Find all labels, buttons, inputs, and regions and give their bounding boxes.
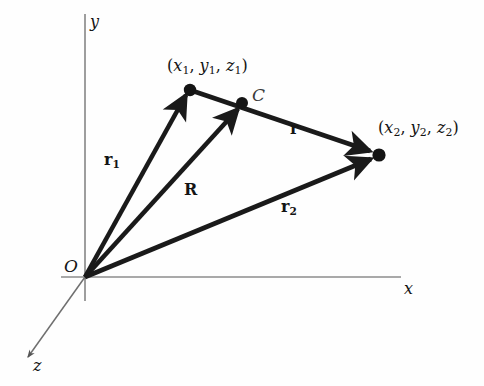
z-axis-label: z bbox=[33, 358, 41, 374]
point-2-y: y bbox=[411, 118, 420, 137]
x-axis-label: x bbox=[404, 281, 413, 297]
z-axis-line bbox=[28, 277, 85, 357]
point-1-coordinate-label: (x1, y1, z1) bbox=[167, 58, 248, 77]
comma-2: , bbox=[216, 56, 221, 75]
paren-close: ) bbox=[452, 118, 458, 137]
vector-r1-subscript: 1 bbox=[112, 158, 119, 170]
point-1-dot bbox=[184, 84, 196, 96]
point-1-y-subscript: 1 bbox=[209, 64, 216, 77]
point-2-x: x bbox=[384, 118, 393, 137]
paren-close: ) bbox=[241, 56, 247, 75]
vector-diagram-figure: y x z O (x1, y1, z1) C (x2, y2, z2) r1 R… bbox=[0, 0, 484, 386]
vector-r-line bbox=[190, 90, 370, 151]
point-2-z: z bbox=[437, 118, 445, 137]
vector-lines bbox=[85, 90, 371, 277]
point-c-label: C bbox=[252, 87, 265, 104]
vector-R-line bbox=[85, 109, 238, 277]
point-2-coordinate-label: (x2, y2, z2) bbox=[378, 120, 459, 139]
comma-1: , bbox=[189, 56, 194, 75]
vector-r2-line bbox=[85, 159, 371, 277]
comma-1: , bbox=[400, 118, 405, 137]
vector-R-label: R bbox=[184, 182, 197, 198]
point-2-dot bbox=[372, 148, 385, 161]
point-1-x: x bbox=[173, 56, 182, 75]
origin-label: O bbox=[64, 258, 78, 275]
point-1-y: y bbox=[200, 56, 209, 75]
comma-2: , bbox=[427, 118, 432, 137]
point-2-y-subscript: 2 bbox=[420, 126, 427, 139]
vector-r-label: r bbox=[290, 121, 298, 137]
vector-r2-subscript: 2 bbox=[289, 205, 296, 217]
point-c-dot bbox=[236, 97, 248, 109]
vector-r1-label: r1 bbox=[104, 152, 120, 170]
y-axis-label: y bbox=[90, 14, 99, 30]
vector-r2-label: r2 bbox=[281, 199, 297, 217]
point-1-z: z bbox=[226, 56, 234, 75]
